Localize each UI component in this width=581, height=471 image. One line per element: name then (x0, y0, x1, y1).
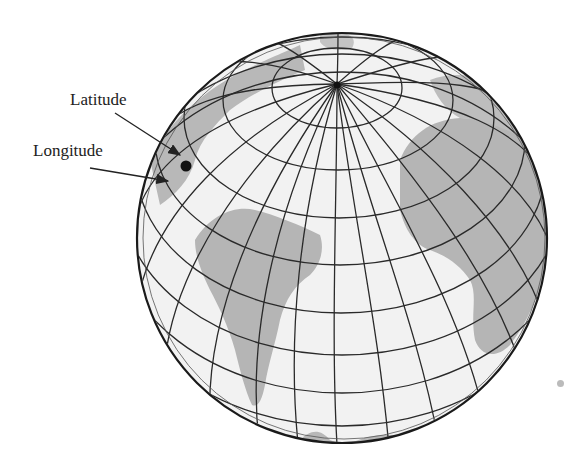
globe-diagram: Latitude Longitude (0, 0, 581, 471)
marked-location-dot (181, 161, 192, 172)
longitude-label: Longitude (33, 141, 103, 161)
globe-svg (0, 0, 581, 471)
stray-dot (557, 380, 564, 387)
latitude-label: Latitude (70, 90, 127, 110)
north-pole-point (334, 82, 341, 89)
